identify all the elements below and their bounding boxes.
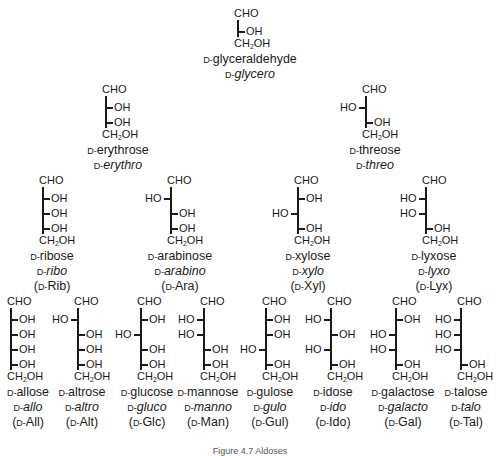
hydroxyl-right-label: OH — [114, 117, 131, 128]
hydroxymethyl-group-label: CH2OH — [422, 235, 458, 246]
configurational-prefix: D-glycero — [225, 68, 275, 82]
bond-line — [171, 213, 178, 215]
sugar-name: D-xylose — [286, 250, 331, 264]
hydroxyl-right-label: OH — [469, 359, 486, 370]
hydroxyl-left-label: HO — [52, 314, 69, 325]
sugar-name: D-glyceraldehyde — [203, 53, 297, 67]
hydroxyl-right-label: OH — [274, 329, 291, 340]
hydroxyl-left-label: HO — [435, 314, 452, 325]
hydroxyl-right-label: OH — [149, 344, 166, 355]
aldehyde-group-label: CHO — [262, 296, 286, 307]
bond-line — [419, 213, 426, 215]
sugar-abbreviation: (D-All) — [12, 416, 44, 430]
bond-line — [171, 228, 178, 230]
configurational-prefix: D-galacto — [378, 401, 428, 415]
bond-line — [238, 31, 245, 33]
aldehyde-group-label: CHO — [167, 175, 191, 186]
sugar-abbreviation: (D-Glc) — [129, 416, 166, 430]
hydroxyl-left-label: HO — [400, 208, 417, 219]
sugar-name: D-talose — [445, 386, 488, 400]
hydroxyl-right-label: OH — [149, 359, 166, 370]
bond-line — [298, 228, 305, 230]
hydroxyl-left-label: HO — [435, 344, 452, 355]
hydroxymethyl-group-label: CH2OH — [74, 371, 110, 382]
hydroxyl-right-label: OH — [86, 344, 103, 355]
sugar-name: D-mannose — [178, 386, 239, 400]
sugar-abbreviation: (D-Tal) — [449, 416, 483, 430]
sugar-name: D-erythrose — [87, 144, 149, 158]
sugar-abbreviation: (D-Gul) — [251, 416, 288, 430]
hydroxyl-right-label: OH — [19, 359, 36, 370]
bond-line — [324, 319, 331, 321]
hydroxyl-right-label: OH — [404, 359, 421, 370]
sugar-abbreviation: (D-Ara) — [161, 280, 198, 294]
bond-line — [454, 319, 461, 321]
bond-line — [71, 319, 78, 321]
aldehyde-group-label: CHO — [392, 296, 416, 307]
aldehyde-group-label: CHO — [362, 84, 386, 95]
configurational-prefix: D-threo — [356, 159, 394, 173]
hydroxymethyl-group-label: CH2OH — [457, 371, 493, 382]
sugar-abbreviation: (D-Rib) — [34, 280, 71, 294]
aldehyde-group-label: CHO — [200, 296, 224, 307]
carbon-backbone-line — [170, 187, 172, 234]
hydroxyl-right-label: OH — [306, 223, 323, 234]
aldehyde-group-label: CHO — [294, 175, 318, 186]
configurational-prefix: D-gulo — [253, 401, 286, 415]
hydroxyl-left-label: HO — [370, 329, 387, 340]
bond-line — [43, 213, 50, 215]
configurational-prefix: D-arabino — [154, 265, 205, 279]
bond-line — [106, 107, 113, 109]
configurational-prefix: D-lyxo — [418, 265, 450, 279]
carbon-backbone-line — [330, 308, 332, 370]
sugar-abbreviation: (D-Lyx) — [416, 280, 453, 294]
bond-line — [389, 349, 396, 351]
hydroxyl-left-label: HO — [145, 193, 162, 204]
sugar-abbreviation: (D-Alt) — [66, 416, 98, 430]
configurational-prefix: D-ribo — [37, 265, 67, 279]
hydroxymethyl-group-label: CH2OH — [362, 129, 398, 140]
hydroxyl-right-label: OH — [306, 193, 323, 204]
hydroxyl-left-label: HO — [240, 344, 257, 355]
sugar-name: D-altrose — [58, 386, 105, 400]
hydroxyl-right-label: OH — [51, 208, 68, 219]
bond-line — [396, 319, 403, 321]
bond-line — [78, 349, 85, 351]
bond-line — [11, 364, 18, 366]
hydroxyl-right-label: OH — [274, 359, 291, 370]
bond-line — [426, 228, 433, 230]
hydroxyl-right-label: OH — [374, 117, 391, 128]
bond-line — [204, 364, 211, 366]
carbon-backbone-line — [77, 308, 79, 370]
aldehyde-group-label: CHO — [74, 296, 98, 307]
sugar-name: D-glucose — [121, 386, 174, 400]
hydroxyl-right-label: OH — [86, 359, 103, 370]
bond-line — [389, 334, 396, 336]
aldehyde-group-label: CHO — [137, 296, 161, 307]
aldehyde-group-label: CHO — [457, 296, 481, 307]
hydroxyl-left-label: HO — [340, 102, 357, 113]
bond-line — [11, 319, 18, 321]
bond-line — [331, 334, 338, 336]
hydroxyl-left-label: HO — [435, 329, 452, 340]
bond-line — [134, 334, 141, 336]
hydroxymethyl-group-label: CH2OH — [234, 38, 270, 49]
sugar-abbreviation: (D-Ido) — [315, 416, 350, 430]
sugar-abbreviation: (D-Xyl) — [290, 280, 325, 294]
bond-line — [197, 319, 204, 321]
bond-line — [78, 334, 85, 336]
sugar-name: D-arabinose — [148, 250, 212, 264]
sugar-name: D-idose — [313, 386, 352, 400]
hydroxyl-right-label: OH — [51, 193, 68, 204]
hydroxymethyl-group-label: CH2OH — [167, 235, 203, 246]
carbon-backbone-line — [395, 308, 397, 370]
sugar-abbreviation: (D-Gal) — [384, 416, 421, 430]
hydroxymethyl-group-label: CH2OH — [262, 371, 298, 382]
bond-line — [106, 122, 113, 124]
bond-line — [454, 334, 461, 336]
hydroxyl-right-label: OH — [19, 344, 36, 355]
hydroxyl-left-label: HO — [178, 329, 195, 340]
hydroxyl-right-label: OH — [339, 329, 356, 340]
bond-line — [141, 364, 148, 366]
bond-line — [266, 319, 273, 321]
